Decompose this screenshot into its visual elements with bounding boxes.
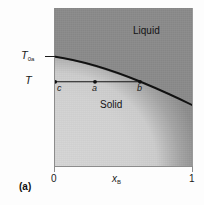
phase-diagram-figure: T0a T 0 1 xB Liquid Solid c a b (a) [0,0,204,205]
y-axis-label: T [25,75,32,86]
point-c-label: c [57,84,62,93]
plot-area [54,8,193,166]
panel-label: (a) [19,182,31,192]
x-axis-tick-label-max: 1 [189,174,195,184]
liquid-region-label: Liquid [133,26,160,36]
curve-layer [54,8,192,166]
liquidus-curve [54,57,192,106]
point-b-label: b [137,84,142,93]
solid-region-label: Solid [100,100,122,110]
x-axis-label: xB [112,174,121,184]
point-a-label: a [92,84,97,93]
x-axis [54,166,193,167]
y-axis-tick-t0a [45,56,55,57]
y-axis [54,8,55,167]
y-axis-tick-label-t0a: T0a [21,50,34,61]
x-axis-tick-min [54,166,55,172]
t0a-base: T [21,49,28,61]
x-axis-tick-label-min: 0 [51,174,57,184]
x-axis-tick-max [192,166,193,172]
t0a-subscript: 0a [28,56,35,62]
xb-subscript: B [117,179,121,185]
